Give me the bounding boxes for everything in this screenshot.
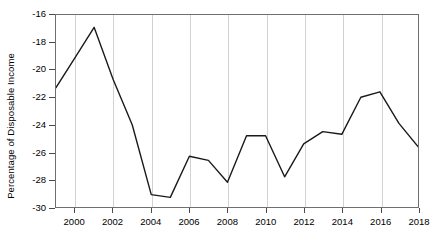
y-tick-label--16: -16	[18, 8, 46, 19]
x-tick-mark-2018	[419, 208, 420, 213]
y-tick-label--24: -24	[18, 119, 46, 130]
x-tick-mark-2014	[342, 208, 343, 213]
line-chart-figure: Percentage of Disposable Income -16-18-2…	[0, 0, 434, 252]
x-tick-mark-2008	[227, 208, 228, 213]
x-tick-label-2006: 2006	[170, 216, 208, 227]
x-tick-label-2018: 2018	[400, 216, 434, 227]
x-tick-mark-2010	[266, 208, 267, 213]
x-tick-label-2004: 2004	[132, 216, 170, 227]
x-tick-label-2010: 2010	[247, 216, 285, 227]
x-tick-label-2000: 2000	[55, 216, 93, 227]
y-tick-mark--30	[49, 208, 55, 209]
x-tick-label-2016: 2016	[362, 216, 400, 227]
plot-area	[55, 14, 419, 208]
y-tick-label--22: -22	[18, 91, 46, 102]
x-tick-mark-2006	[189, 208, 190, 213]
x-tick-mark-2016	[381, 208, 382, 213]
y-tick-label--20: -20	[18, 63, 46, 74]
x-tick-label-2012: 2012	[285, 216, 323, 227]
x-tick-label-2008: 2008	[208, 216, 246, 227]
x-tick-mark-2000	[74, 208, 75, 213]
y-axis-title: Percentage of Disposable Income	[0, 0, 20, 252]
x-tick-label-2014: 2014	[323, 216, 361, 227]
y-tick-label--28: -28	[18, 174, 46, 185]
y-tick-label--26: -26	[18, 147, 46, 158]
x-tick-mark-2004	[151, 208, 152, 213]
x-tick-mark-2002	[112, 208, 113, 213]
y-tick-label--30: -30	[18, 202, 46, 213]
series-polyline	[56, 27, 418, 197]
data-series-line	[56, 15, 418, 207]
x-tick-mark-2012	[304, 208, 305, 213]
x-tick-label-2002: 2002	[93, 216, 131, 227]
y-tick-label--18: -18	[18, 36, 46, 47]
